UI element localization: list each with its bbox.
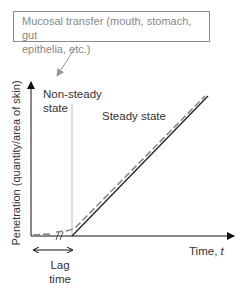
lag-line-2: time: [43, 272, 77, 286]
x-axis-label: Time, t: [189, 244, 224, 258]
non-steady-line-2: state: [43, 101, 102, 115]
steady-state-label: Steady state: [102, 109, 166, 123]
x-axis-variable: t: [221, 245, 224, 257]
non-steady-state-label: Non-steady state: [43, 87, 102, 115]
non-steady-line-1: Non-steady: [43, 87, 102, 101]
y-axis-label: Penetration (quantity/area of skin): [10, 80, 22, 245]
callout-arrow: [57, 48, 75, 76]
lag-time-label: Lag time: [43, 258, 77, 286]
lag-line-1: Lag: [43, 258, 77, 272]
x-axis-label-text: Time,: [189, 245, 221, 257]
